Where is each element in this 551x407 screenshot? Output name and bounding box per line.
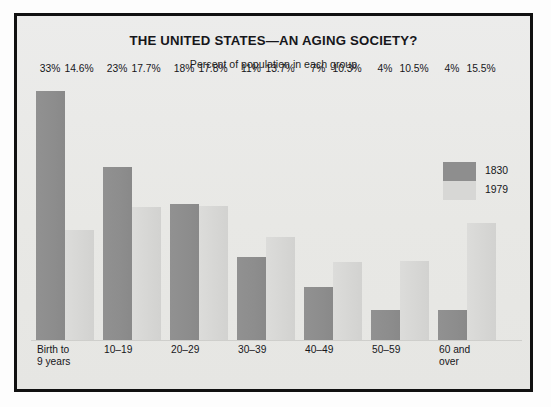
category-label: Birth to9 years bbox=[31, 344, 98, 369]
chart-canvas: THE UNITED STATES—AN AGING SOCIETY? Perc… bbox=[17, 16, 530, 389]
bar-1979: 17.7% bbox=[132, 207, 161, 341]
bar-1979: 10.3% bbox=[333, 262, 362, 340]
category-label: 10–19 bbox=[98, 344, 165, 369]
bar-group: 23%17.7% bbox=[98, 76, 165, 340]
bar-1979: 14.6% bbox=[65, 230, 94, 340]
bar-column: 4% bbox=[438, 76, 467, 340]
bar-value-label: 17.8% bbox=[198, 64, 227, 74]
plot-area: 33%14.6%23%17.7%18%17.8%11%13.7%7%10.3%4… bbox=[17, 16, 530, 389]
bar-1830: 11% bbox=[237, 257, 266, 340]
bar-value-label: 11% bbox=[241, 64, 261, 74]
bar-1830: 4% bbox=[438, 310, 467, 340]
bar-value-label: 23% bbox=[107, 64, 128, 74]
bar-1979: 15.5% bbox=[467, 223, 496, 340]
category-labels: Birth to9 years10–1920–2930–3940–4950–59… bbox=[31, 344, 522, 369]
legend-item-1830: 1830 bbox=[443, 162, 508, 181]
legend-item-1979: 1979 bbox=[443, 181, 508, 200]
category-label: 50–59 bbox=[366, 344, 433, 369]
bar-column: 14.6% bbox=[65, 76, 94, 340]
bar-groups: 33%14.6%23%17.7%18%17.8%11%13.7%7%10.3%4… bbox=[31, 76, 522, 340]
bar-value-label: 33% bbox=[40, 64, 61, 74]
category-label-line: 20–29 bbox=[171, 344, 232, 356]
bar-value-label: 10.3% bbox=[332, 64, 361, 74]
bar-group: 4%15.5% bbox=[433, 76, 500, 340]
category-label-line: 60 and bbox=[439, 344, 500, 356]
bar-value-label: 10.5% bbox=[399, 64, 428, 74]
category-label-line: 30–39 bbox=[238, 344, 299, 356]
chart-legend: 1830 1979 bbox=[443, 162, 508, 200]
category-label-line: 40–49 bbox=[305, 344, 366, 356]
bar-column: 23% bbox=[103, 76, 132, 340]
legend-swatch-1830 bbox=[443, 162, 476, 181]
bar-column: 17.8% bbox=[199, 76, 228, 340]
bar-1830: 7% bbox=[304, 287, 333, 340]
bar-group: 18%17.8% bbox=[165, 76, 232, 340]
bar-column: 4% bbox=[371, 76, 400, 340]
legend-label-1979: 1979 bbox=[485, 185, 508, 195]
bar-column: 18% bbox=[170, 76, 199, 340]
bar-1830: 4% bbox=[371, 310, 400, 340]
category-label-line: 50–59 bbox=[372, 344, 433, 356]
bar-value-label: 17.7% bbox=[131, 64, 160, 74]
category-label-line: over bbox=[439, 356, 500, 368]
bar-1979: 17.8% bbox=[199, 206, 228, 340]
bar-group: 7%10.3% bbox=[299, 76, 366, 340]
bar-1979: 10.5% bbox=[400, 261, 429, 340]
bar-column: 7% bbox=[304, 76, 333, 340]
bar-value-label: 4% bbox=[378, 64, 393, 74]
category-label: 30–39 bbox=[232, 344, 299, 369]
bar-column: 11% bbox=[237, 76, 266, 340]
bar-column: 17.7% bbox=[132, 76, 161, 340]
category-label: 40–49 bbox=[299, 344, 366, 369]
bar-column: 13.7% bbox=[266, 76, 295, 340]
bar-1979: 13.7% bbox=[266, 237, 295, 340]
bar-1830: 23% bbox=[103, 167, 132, 341]
category-label: 20–29 bbox=[165, 344, 232, 369]
category-label-line: 10–19 bbox=[104, 344, 165, 356]
bar-column: 33% bbox=[36, 76, 65, 340]
category-label-line: 9 years bbox=[37, 356, 98, 368]
legend-label-1830: 1830 bbox=[485, 166, 508, 176]
bar-1830: 33% bbox=[36, 91, 65, 340]
bar-column: 10.3% bbox=[333, 76, 362, 340]
bar-group: 11%13.7% bbox=[232, 76, 299, 340]
bar-value-label: 14.6% bbox=[64, 64, 93, 74]
axis-baseline bbox=[31, 340, 522, 341]
bar-value-label: 7% bbox=[311, 64, 326, 74]
legend-swatch-1979 bbox=[443, 181, 476, 200]
bar-value-label: 18% bbox=[174, 64, 195, 74]
bar-column: 15.5% bbox=[467, 76, 496, 340]
bar-value-label: 15.5% bbox=[466, 64, 495, 74]
bar-value-label: 13.7% bbox=[265, 64, 294, 74]
category-label: 60 andover bbox=[433, 344, 500, 369]
bar-value-label: 4% bbox=[445, 64, 460, 74]
bar-column: 10.5% bbox=[400, 76, 429, 340]
chart-page: THE UNITED STATES—AN AGING SOCIETY? Perc… bbox=[0, 0, 551, 407]
chart-frame: THE UNITED STATES—AN AGING SOCIETY? Perc… bbox=[14, 13, 533, 392]
bar-1830: 18% bbox=[170, 204, 199, 340]
category-label-line: Birth to bbox=[37, 344, 98, 356]
bar-group: 33%14.6% bbox=[31, 76, 98, 340]
bar-group: 4%10.5% bbox=[366, 76, 433, 340]
